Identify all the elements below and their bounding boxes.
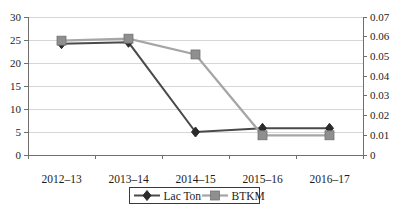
series-btkm xyxy=(57,34,334,140)
y-axis-right-tick-label: 0.06 xyxy=(370,30,390,42)
y-axis-right-tick-label: 0.03 xyxy=(370,89,390,101)
legend: Lac TonBTKM xyxy=(130,188,265,204)
y-axis-left-tick-label: 10 xyxy=(10,103,22,115)
square-marker-icon xyxy=(124,34,133,43)
axis-labels: 05101520253000.010.020.030.040.050.060.0… xyxy=(10,11,390,186)
y-axis-right-tick-label: 0.02 xyxy=(370,109,389,121)
y-axis-left-tick-label: 25 xyxy=(10,34,22,46)
y-axis-left-tick-label: 15 xyxy=(10,80,22,92)
square-marker-icon xyxy=(258,131,267,140)
x-axis-tick-label: 2014–15 xyxy=(175,173,216,185)
y-axis-right-tick-label: 0.04 xyxy=(370,70,390,82)
legend-item-btkm: BTKM xyxy=(202,190,265,202)
gridlines xyxy=(28,17,363,132)
square-marker-icon xyxy=(57,36,66,45)
y-axis-right-tick-label: 0.07 xyxy=(370,11,390,23)
x-axis-tick-label: 2012–13 xyxy=(41,173,82,185)
legend-label-lac-ton: Lac Ton xyxy=(164,190,202,202)
y-axis-right-tick-label: 0.05 xyxy=(370,50,390,62)
y-axis-left-tick-label: 0 xyxy=(16,149,22,161)
chart-canvas: 05101520253000.010.020.030.040.050.060.0… xyxy=(0,0,400,214)
square-marker-icon xyxy=(211,191,220,200)
line-chart: 05101520253000.010.020.030.040.050.060.0… xyxy=(0,0,400,214)
legend-label-btkm: BTKM xyxy=(232,190,265,202)
y-axis-right-tick-label: 0.01 xyxy=(370,129,389,141)
y-axis-right-tick-label: 0 xyxy=(370,149,376,161)
y-axis-left-tick-label: 30 xyxy=(10,11,22,23)
y-axis-left-tick-label: 5 xyxy=(16,126,22,138)
x-axis-tick-label: 2015–16 xyxy=(242,173,283,185)
square-marker-icon xyxy=(325,131,334,140)
x-axis-tick-label: 2016–17 xyxy=(309,173,350,185)
square-marker-icon xyxy=(191,50,200,59)
y-axis-left-tick-label: 20 xyxy=(10,57,22,69)
x-axis-tick-label: 2013–14 xyxy=(108,173,149,185)
